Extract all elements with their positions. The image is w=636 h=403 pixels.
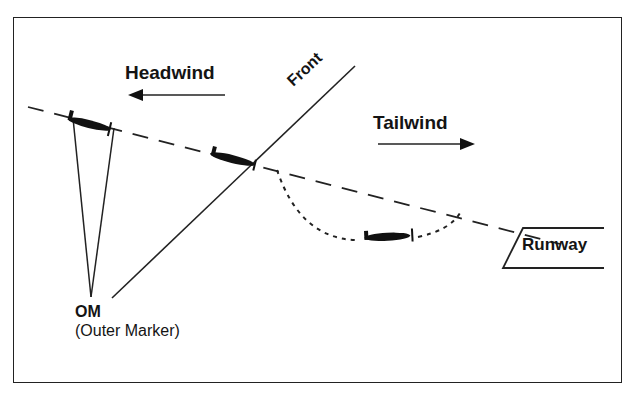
om-label: OM xyxy=(75,303,101,321)
tailwind-arrow-icon xyxy=(460,138,475,150)
headwind-label: Headwind xyxy=(125,62,215,84)
runway-label: Runway xyxy=(522,235,587,255)
headwind-arrow-icon xyxy=(128,89,143,101)
aircraft-icon xyxy=(364,228,414,244)
outer-marker-label: (Outer Marker) xyxy=(75,322,180,340)
marker-cone-right xyxy=(91,128,114,297)
tailwind-label: Tailwind xyxy=(373,112,448,134)
marker-cone-left xyxy=(73,118,91,297)
